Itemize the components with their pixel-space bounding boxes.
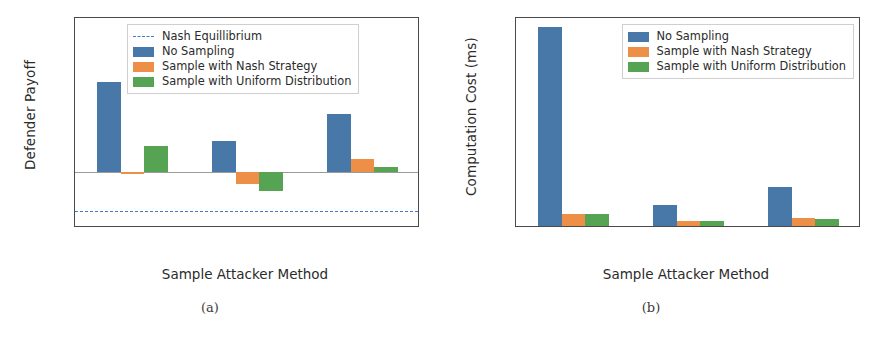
x-axis-label-b: Sample Attacker Method (501, 266, 871, 282)
plot-area-b: 02505007501000125015001750No SamplingSam… (515, 17, 860, 227)
x-tick-mark (688, 226, 689, 227)
legend-a: Nash EquillibriumNo SamplingSample with … (127, 24, 359, 94)
legend-b: No SamplingSample with Nash StrategySamp… (622, 24, 854, 79)
legend-color-swatch-icon (133, 62, 154, 72)
y-axis-label-b: Computation Cost (ms) (463, 37, 479, 196)
bar (259, 172, 283, 190)
legend-color-swatch-icon (628, 62, 649, 72)
y-tick-mark (515, 169, 516, 170)
y-tick-mark (74, 133, 75, 134)
y-tick-mark (515, 198, 516, 199)
legend-color-swatch-icon (628, 32, 649, 42)
plot-inner-b: 02505007501000125015001750No SamplingSam… (516, 18, 859, 226)
y-tick-mark (515, 52, 516, 53)
bar (700, 221, 724, 227)
x-axis-label-a: Sample Attacker Method (60, 266, 430, 282)
bar (585, 214, 609, 227)
panel-b: Computation Cost (ms) 025050075010001250… (441, 0, 882, 343)
y-tick-mark (74, 17, 75, 18)
legend-item: Nash Equillibrium (133, 29, 351, 44)
legend-label: Sample with Nash Strategy (657, 46, 812, 57)
y-tick-mark (515, 111, 516, 112)
y-tick-label: 0 (515, 221, 516, 227)
legend-label: No Sampling (657, 31, 729, 42)
legend-item: No Sampling (628, 29, 846, 44)
legend-item: No Sampling (133, 44, 351, 59)
bar (792, 218, 816, 227)
x-tick-mark (573, 226, 574, 227)
bar (327, 114, 351, 172)
plot-area-a: -101234No SamplingSample Max ProbSample … (74, 17, 419, 227)
legend-color-swatch-icon (628, 47, 649, 57)
y-tick-mark (74, 95, 75, 96)
bar (351, 159, 375, 172)
legend-color-swatch-icon (133, 77, 154, 87)
bar (121, 172, 145, 174)
y-axis-label-a: Defender Payoff (22, 60, 38, 170)
plot-inner-a: -101234No SamplingSample Max ProbSample … (75, 18, 418, 226)
bar (212, 141, 236, 172)
bar (768, 187, 792, 227)
panel-a: Defender Payoff -101234No SamplingSample… (0, 0, 441, 343)
x-tick-mark (132, 226, 133, 227)
bar (562, 214, 586, 227)
bar (144, 146, 168, 172)
bar (677, 221, 701, 227)
x-tick-mark (803, 226, 804, 227)
nash-equilibrium-reference-line (75, 211, 418, 212)
legend-item: Sample with Uniform Distribution (133, 74, 351, 89)
bar (815, 219, 839, 227)
bar (374, 167, 398, 172)
legend-dashed-line-icon (133, 36, 154, 37)
x-tick-mark (247, 226, 248, 227)
bar (97, 82, 121, 173)
bar (653, 205, 677, 227)
y-tick-mark (74, 56, 75, 57)
legend-label: Sample with Nash Strategy (162, 61, 317, 72)
legend-label: Nash Equillibrium (162, 31, 262, 42)
legend-item: Sample with Nash Strategy (133, 59, 351, 74)
legend-label: Sample with Uniform Distribution (162, 76, 351, 87)
legend-label: Sample with Uniform Distribution (657, 61, 846, 72)
subcaption-a: (a) (180, 300, 240, 315)
x-tick-mark (362, 226, 363, 227)
legend-item: Sample with Uniform Distribution (628, 59, 846, 74)
y-tick-mark (515, 23, 516, 24)
legend-label: No Sampling (162, 46, 234, 57)
y-tick-mark (515, 140, 516, 141)
legend-color-swatch-icon (133, 47, 154, 57)
legend-item: Sample with Nash Strategy (628, 44, 846, 59)
bar (538, 27, 562, 227)
subcaption-b: (b) (621, 300, 681, 315)
bar (236, 172, 260, 184)
y-tick-mark (515, 82, 516, 83)
figure-two-panel-bar-charts: Defender Payoff -101234No SamplingSample… (0, 0, 882, 343)
